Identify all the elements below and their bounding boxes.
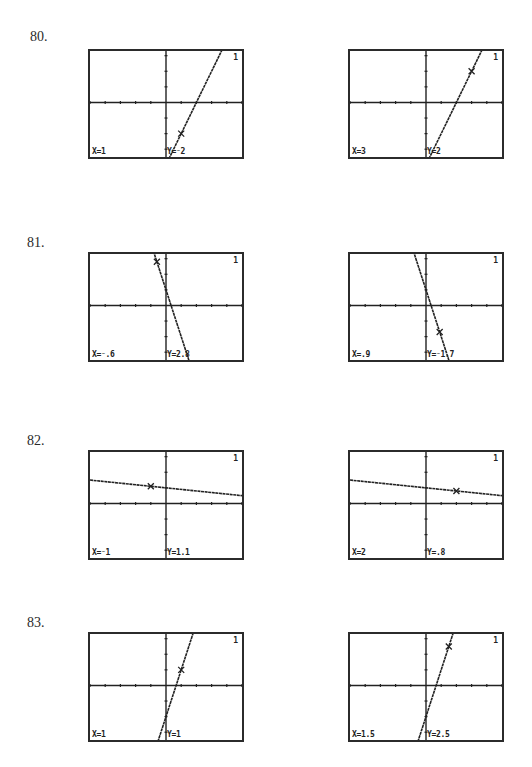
graph-canvas [90, 51, 242, 157]
y-value-label: Y=⁻1.7 [427, 350, 454, 359]
problem-number-81: 81. [27, 235, 45, 251]
calculator-screen: 1 X=1.5 Y=2.5 [348, 632, 504, 742]
y-value-label: Y=.8 [427, 548, 445, 557]
trace-cursor-icon [469, 68, 475, 74]
graph-canvas [90, 452, 242, 558]
x-value-label: X=3 [352, 147, 366, 156]
x-value-label: X=1.5 [352, 730, 375, 739]
y-value-label: Y=1.1 [167, 548, 190, 557]
graph-number: 1 [233, 53, 238, 62]
problem-number-83: 83. [27, 615, 45, 631]
calculator-screen: 1 X=2 Y=.8 [348, 450, 504, 560]
y-value-label: Y=1 [167, 730, 181, 739]
y-value-label: Y=2.5 [427, 730, 450, 739]
graph-number: 1 [493, 454, 498, 463]
calculator-screen: 1 X=3 Y=2 [348, 49, 504, 159]
x-value-label: X=2 [352, 548, 366, 557]
graph-number: 1 [233, 256, 238, 265]
x-value-label: X=1 [92, 730, 106, 739]
graph-canvas [90, 634, 242, 740]
graph-number: 1 [493, 53, 498, 62]
trace-cursor-icon [178, 131, 184, 137]
x-value-label: X=⁻.6 [92, 350, 115, 359]
calculator-screen: 1 X=1 Y=1 [88, 632, 244, 742]
y-value-label: Y=2.8 [167, 350, 190, 359]
graph-canvas [350, 634, 502, 740]
x-value-label: X=1 [92, 147, 106, 156]
graph-number: 1 [233, 454, 238, 463]
graph-number: 1 [493, 256, 498, 265]
y-value-label: Y=⁻2 [167, 147, 185, 156]
graph-number: 1 [493, 636, 498, 645]
x-value-label: X=.9 [352, 350, 370, 359]
x-value-label: X=⁻1 [92, 548, 110, 557]
graph-canvas [350, 254, 502, 360]
graph-canvas [350, 51, 502, 157]
problem-number-82: 82. [27, 433, 45, 449]
y-value-label: Y=2 [427, 147, 441, 156]
graph-number: 1 [233, 636, 238, 645]
problem-number-80: 80. [30, 29, 48, 45]
calculator-screen: 1 X=1 Y=⁻2 [88, 49, 244, 159]
calculator-screen: 1 X=⁻1 Y=1.1 [88, 450, 244, 560]
graph-canvas [350, 452, 502, 558]
calculator-screen: 1 X=⁻.6 Y=2.8 [88, 252, 244, 362]
graph-canvas [90, 254, 242, 360]
calculator-screen: 1 X=.9 Y=⁻1.7 [348, 252, 504, 362]
